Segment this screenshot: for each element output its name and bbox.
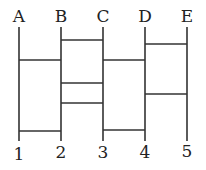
bottom-label-2: 2 (56, 142, 67, 162)
bottom-labels: 1 2 3 4 5 (14, 141, 193, 164)
top-label-a: A (12, 6, 26, 26)
bottom-label-4: 4 (140, 142, 151, 162)
ladder-diagram: A B C D E 1 2 3 4 5 (0, 0, 206, 170)
top-label-c: C (96, 6, 109, 26)
bottom-label-5: 5 (182, 141, 193, 161)
bottom-label-3: 3 (98, 142, 109, 162)
top-label-d: D (138, 6, 152, 26)
bottom-label-1: 1 (14, 144, 25, 164)
top-label-e: E (181, 6, 193, 26)
top-label-b: B (55, 6, 68, 26)
top-labels: A B C D E (12, 6, 193, 26)
